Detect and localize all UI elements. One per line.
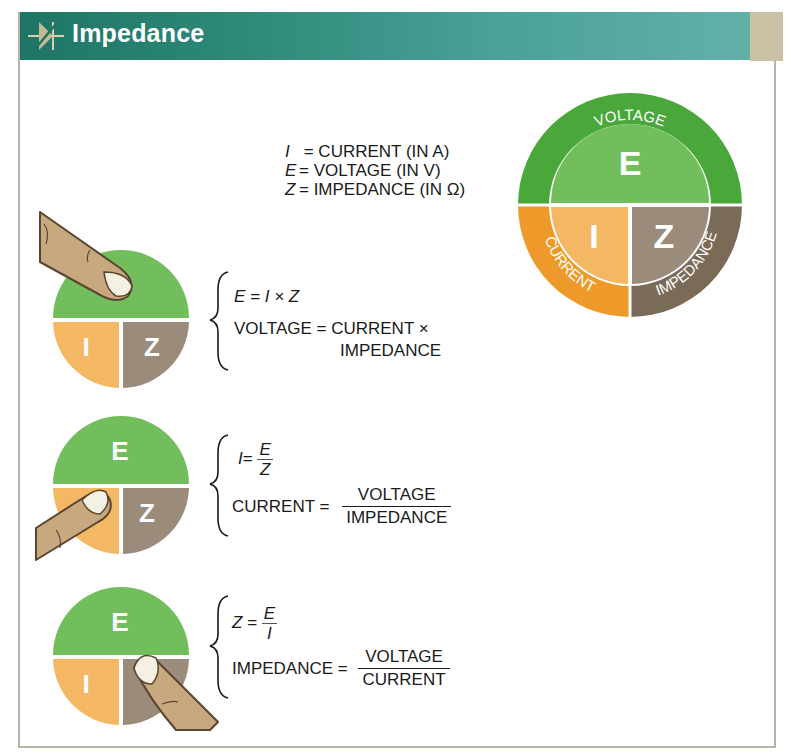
mini-letter-I: I	[82, 332, 89, 362]
formula-voltage-words-line2: IMPEDANCE	[340, 341, 441, 361]
fraction-symbolic: EZ	[257, 440, 272, 479]
wheel-letter-I: I	[589, 217, 598, 255]
formula-voltage-symbolic: E = I × Z	[234, 287, 299, 307]
formula-voltage-words: VOLTAGE = CURRENT ×	[234, 319, 429, 339]
fraction-symbolic: EI	[262, 604, 277, 643]
mini-letter-Z: Z	[139, 498, 155, 528]
mini-letter-E: E	[111, 436, 128, 466]
mini-letter-E: E	[111, 607, 128, 637]
fraction-words: VOLTAGEIMPEDANCE	[342, 484, 451, 529]
fraction-words: VOLTAGECURRENT	[358, 646, 449, 691]
formula-impedance-words: IMPEDANCE = VOLTAGECURRENT	[232, 646, 450, 691]
wheel-letter-Z: Z	[654, 217, 675, 255]
mini-wheel-voltage: I Z	[40, 212, 189, 388]
mini-letter-Z: Z	[144, 332, 160, 362]
mini-wheel-impedance: E I	[53, 587, 218, 730]
formula-current-words: CURRENT = VOLTAGEIMPEDANCE	[232, 484, 451, 529]
formula-impedance-symbolic: Z = EI	[232, 604, 277, 643]
brace-1	[210, 272, 228, 370]
ohms-law-wheel: E I Z VOLTAGE CURRENT IMPEDANCE	[518, 93, 742, 317]
brace-2	[210, 435, 228, 536]
wheel-letter-E: E	[619, 144, 642, 182]
formula-current-symbolic: I= EZ	[238, 440, 273, 479]
mini-wheel-current: E Z	[36, 416, 189, 560]
brace-3	[210, 596, 228, 698]
diagram-canvas: E I Z VOLTAGE CURRENT IMPEDANCE I Z E Z	[0, 0, 791, 756]
mini-letter-I: I	[82, 669, 89, 699]
